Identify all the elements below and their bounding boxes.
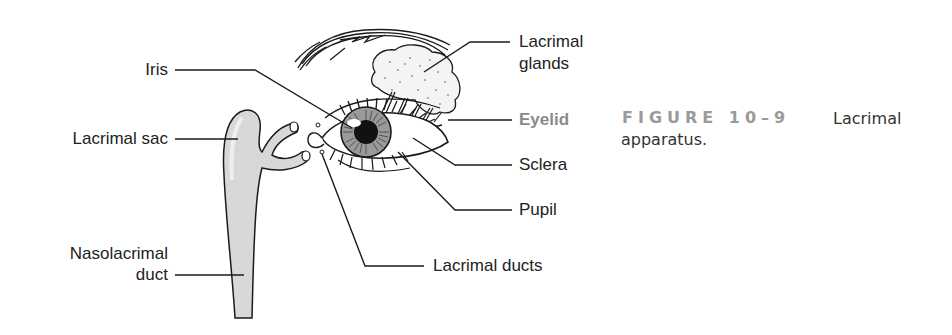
label-iris: Iris [60, 59, 168, 80]
label-lacrimal-glands-line1: Lacrimal [519, 31, 583, 52]
figure-number: FIGURE 10–9 [622, 108, 790, 127]
label-eyelid: Eyelid [519, 109, 569, 130]
label-pupil: Pupil [519, 199, 557, 220]
label-lacrimal-sac: Lacrimal sac [20, 128, 168, 149]
label-nasolacrimal-duct-line1: Nasolacrimal [20, 243, 168, 264]
label-nasolacrimal-duct-line2: duct [20, 264, 168, 285]
iris-leader [175, 70, 352, 128]
caruncle [308, 133, 324, 148]
pupil-leader [398, 152, 512, 210]
lacrimal-sac-and-duct [224, 110, 309, 318]
lower-canaliculus-end [302, 151, 310, 161]
lower-punctum [320, 150, 324, 154]
upper-canaliculus-end [290, 122, 298, 132]
lacrimal-apparatus-figure: Iris Lacrimal sac Nasolacrimal duct Lacr… [0, 0, 952, 335]
label-lacrimal-glands-line2: glands [519, 53, 569, 74]
caption-title-line2: apparatus. [621, 130, 707, 150]
caption-title-line1: Lacrimal [833, 109, 901, 129]
upper-punctum [316, 123, 320, 127]
label-lacrimal-ducts: Lacrimal ducts [433, 255, 543, 276]
label-sclera: Sclera [519, 154, 567, 175]
